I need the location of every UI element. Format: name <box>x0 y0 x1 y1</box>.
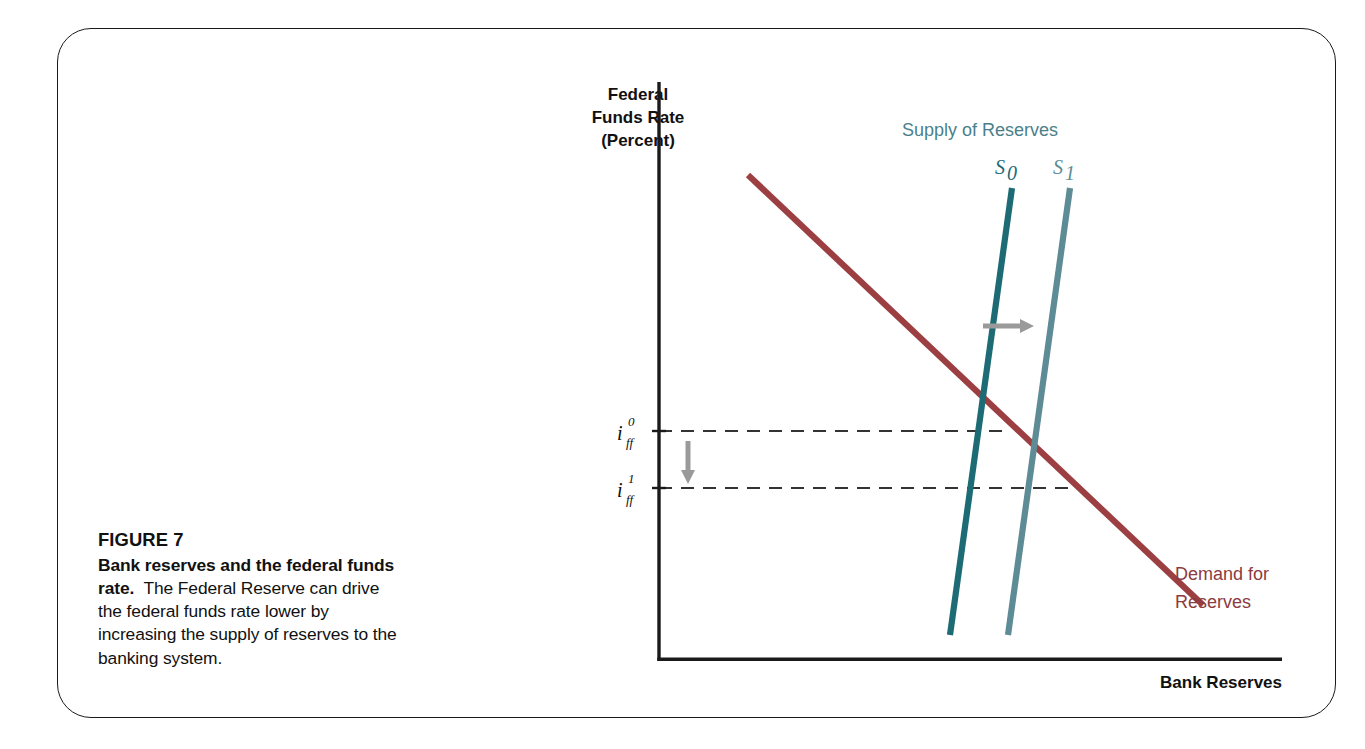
figure-page: FIGURE 7Bank reserves and the federal fu… <box>0 0 1365 749</box>
y-axis-label-line-3: (Percent) <box>601 131 675 150</box>
supply-group-label: Supply of Reserves <box>902 120 1058 140</box>
supply-s0-label: S 0 <box>995 156 1017 184</box>
demand-label-line-1: Demand for <box>1175 564 1269 584</box>
iff0-subscript: ff <box>626 435 636 450</box>
iff0-superscript: 0 <box>628 414 635 429</box>
iff0-base: i <box>617 422 623 444</box>
figure-caption: FIGURE 7Bank reserves and the federal fu… <box>98 528 403 670</box>
x-axis-label: Bank Reserves <box>1160 673 1282 692</box>
s0-base: S <box>995 156 1005 178</box>
y-tick-label-iff1: i ff 1 <box>617 471 636 507</box>
s1-base: S <box>1053 156 1063 178</box>
y-tick-label-iff0: i ff 0 <box>617 414 636 450</box>
figure-number: FIGURE 7 <box>98 528 403 553</box>
iff1-base: i <box>617 479 623 501</box>
supply-curve-s1 <box>1008 188 1070 635</box>
figure-description: The Federal Reserve can drive the federa… <box>98 578 397 668</box>
iff1-superscript: 1 <box>628 471 635 486</box>
y-axis-label-line-2: Funds Rate <box>592 108 685 127</box>
supply-s1-label: S 1 <box>1053 156 1075 184</box>
s0-subscript: 0 <box>1007 162 1017 184</box>
down-arrow-annotation <box>681 441 695 484</box>
demand-label-line-2: Reserves <box>1175 592 1251 612</box>
s1-subscript: 1 <box>1065 162 1075 184</box>
demand-curve <box>748 175 1203 605</box>
chart-plot-area: Federal Funds Rate (Percent) Bank Reserv… <box>560 60 1320 710</box>
iff1-subscript: ff <box>626 492 636 507</box>
